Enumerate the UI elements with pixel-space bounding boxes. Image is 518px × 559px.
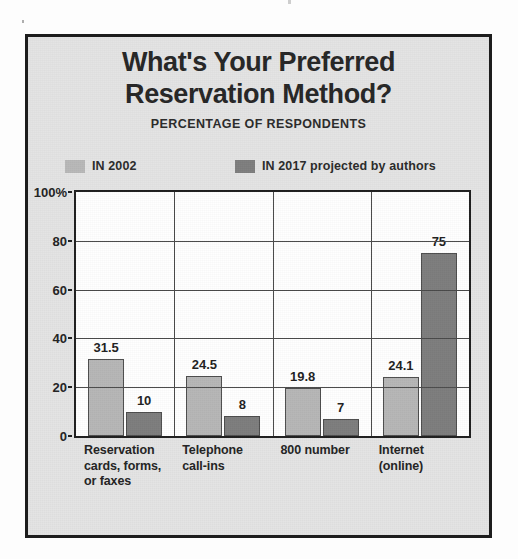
y-axis-tick-60 — [68, 289, 72, 291]
category-separator-1 — [174, 192, 175, 436]
chart-subtitle: PERCENTAGE OF RESPONDENTS — [28, 117, 489, 131]
x-label-line: (online) — [379, 459, 424, 475]
scan-artifact-speck — [22, 20, 24, 23]
legend-item-in-2017: IN 2017 projected by authors — [235, 159, 436, 173]
bar-value-label-2017-1: 8 — [239, 397, 246, 412]
legend-item-in-2002: IN 2002 — [65, 159, 136, 173]
y-axis-tick-0 — [68, 435, 72, 437]
legend-label-2017: IN 2017 projected by authors — [262, 159, 436, 173]
y-axis-label-60: 60 — [53, 282, 67, 297]
chart-title-line-1: What's Your Preferred — [28, 46, 489, 78]
bar-2017-1 — [224, 416, 260, 436]
x-axis-label-2: 800 number — [281, 443, 350, 459]
x-label-line: Internet — [379, 443, 424, 459]
x-label-line: Reservation — [84, 443, 161, 459]
x-label-line: 800 number — [281, 443, 350, 459]
y-axis: 020406080100% — [28, 190, 72, 438]
bar-2017-2 — [323, 419, 359, 436]
y-axis-tick-100 — [68, 191, 72, 193]
category-separator-3 — [371, 192, 372, 436]
x-label-line: Telephone — [182, 443, 243, 459]
y-axis-tick-80 — [68, 240, 72, 242]
x-label-line: or faxes — [84, 474, 161, 490]
bar-value-label-2017-0: 10 — [137, 393, 151, 408]
chart-title-line-2: Reservation Method? — [28, 78, 489, 110]
bar-2002-0 — [88, 359, 124, 436]
bar-value-label-2002-3: 24.1 — [388, 358, 413, 373]
x-axis-category-labels: Reservationcards, forms,or faxesTelephon… — [74, 443, 471, 513]
bar-2017-0 — [126, 412, 162, 436]
bar-2017-3 — [421, 253, 457, 436]
bar-value-label-2017-2: 7 — [337, 400, 344, 415]
x-label-line: cards, forms, — [84, 459, 161, 475]
legend-label-2002: IN 2002 — [92, 159, 136, 173]
y-axis-label-20: 20 — [53, 380, 67, 395]
category-separator-2 — [273, 192, 274, 436]
x-label-line: call-ins — [182, 459, 243, 475]
bar-value-label-2002-2: 19.8 — [290, 369, 315, 384]
chart-page: What's Your Preferred Reservation Method… — [0, 0, 518, 559]
plot-area: 31.51024.5819.8724.175 — [74, 190, 471, 438]
legend-swatch-icon-2002 — [65, 160, 85, 173]
y-axis-label-0: 0 — [60, 429, 67, 444]
chart-frame: What's Your Preferred Reservation Method… — [25, 34, 492, 538]
x-axis-label-3: Internet(online) — [379, 443, 424, 474]
y-axis-tick-40 — [68, 337, 72, 339]
scan-artifact-speck-top — [288, 0, 291, 4]
chart-title: What's Your Preferred Reservation Method… — [28, 46, 489, 110]
legend-swatch-icon-2017 — [235, 160, 255, 173]
x-axis-label-0: Reservationcards, forms,or faxes — [84, 443, 161, 490]
bar-2002-1 — [186, 376, 222, 436]
y-axis-label-40: 40 — [53, 331, 67, 346]
bar-value-label-2002-0: 31.5 — [93, 340, 118, 355]
y-axis-label-100: 100% — [34, 185, 67, 200]
y-axis-tick-20 — [68, 386, 72, 388]
y-axis-label-80: 80 — [53, 233, 67, 248]
bar-value-label-2002-1: 24.5 — [192, 357, 217, 372]
bar-2002-2 — [285, 388, 321, 436]
bar-2002-3 — [383, 377, 419, 436]
x-axis-label-1: Telephonecall-ins — [182, 443, 243, 474]
chart-legend: IN 2002 IN 2017 projected by authors — [28, 159, 489, 175]
